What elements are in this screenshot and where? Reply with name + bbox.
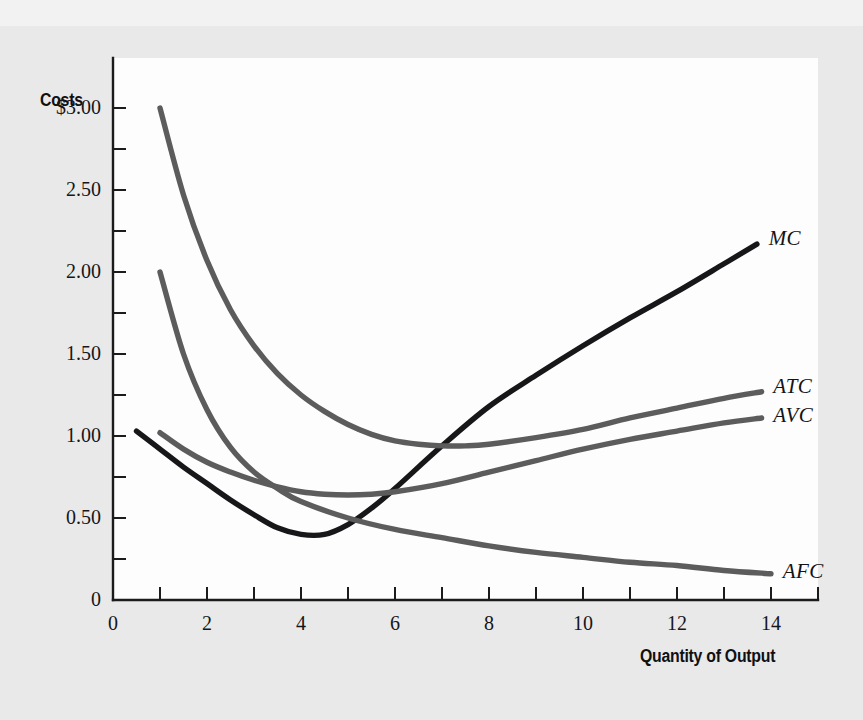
x-tick-label: 14 bbox=[751, 612, 791, 635]
curve-label-atc: ATC bbox=[773, 374, 812, 399]
axis-lines bbox=[113, 58, 818, 600]
x-tick-label: 0 bbox=[93, 612, 133, 635]
x-tick-label: 10 bbox=[563, 612, 603, 635]
x-axis-title: Quantity of Output bbox=[640, 646, 775, 667]
cost-curves-figure: Costs Quantity of Output 00.501.001.502.… bbox=[0, 0, 863, 720]
figure-page: Costs Quantity of Output 00.501.001.502.… bbox=[0, 0, 863, 720]
y-tick-label: 2.00 bbox=[66, 260, 101, 283]
x-tick-label: 4 bbox=[281, 612, 321, 635]
x-tick-label: 2 bbox=[187, 612, 227, 635]
y-tick-label: 2.50 bbox=[66, 178, 101, 201]
curve-label-afc: AFC bbox=[783, 559, 824, 584]
axis-ticks bbox=[113, 108, 818, 600]
x-tick-label: 6 bbox=[375, 612, 415, 635]
curve-label-avc: AVC bbox=[773, 403, 813, 428]
cost-curves bbox=[137, 108, 772, 574]
y-tick-label: $3.00 bbox=[56, 96, 101, 119]
y-tick-label: 0.50 bbox=[66, 506, 101, 529]
curve-mc bbox=[137, 244, 757, 535]
y-tick-label: 1.00 bbox=[66, 424, 101, 447]
curve-atc bbox=[160, 108, 762, 446]
y-tick-label: 0 bbox=[91, 588, 101, 611]
y-tick-label: 1.50 bbox=[66, 342, 101, 365]
x-tick-label: 12 bbox=[657, 612, 697, 635]
curve-label-mc: MC bbox=[769, 226, 801, 251]
x-tick-label: 8 bbox=[469, 612, 509, 635]
